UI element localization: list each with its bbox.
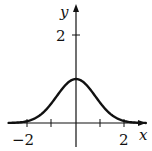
y-tick-label-2: 2 bbox=[56, 27, 66, 45]
x-axis-label: x bbox=[139, 126, 148, 144]
x-tick-label-neg2: −2 bbox=[12, 131, 34, 149]
chart: y 2 −2 2 x bbox=[0, 0, 152, 151]
y-axis-arrow-icon bbox=[73, 4, 79, 12]
x-tick-label-2: 2 bbox=[119, 131, 129, 149]
y-axis-label: y bbox=[59, 3, 69, 21]
bell-curve bbox=[9, 79, 146, 123]
